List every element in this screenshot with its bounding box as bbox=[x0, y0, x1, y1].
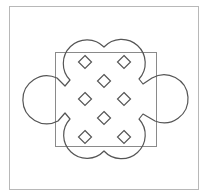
geometric-figure bbox=[0, 0, 206, 195]
background bbox=[0, 0, 206, 195]
figure-canvas bbox=[0, 0, 206, 195]
